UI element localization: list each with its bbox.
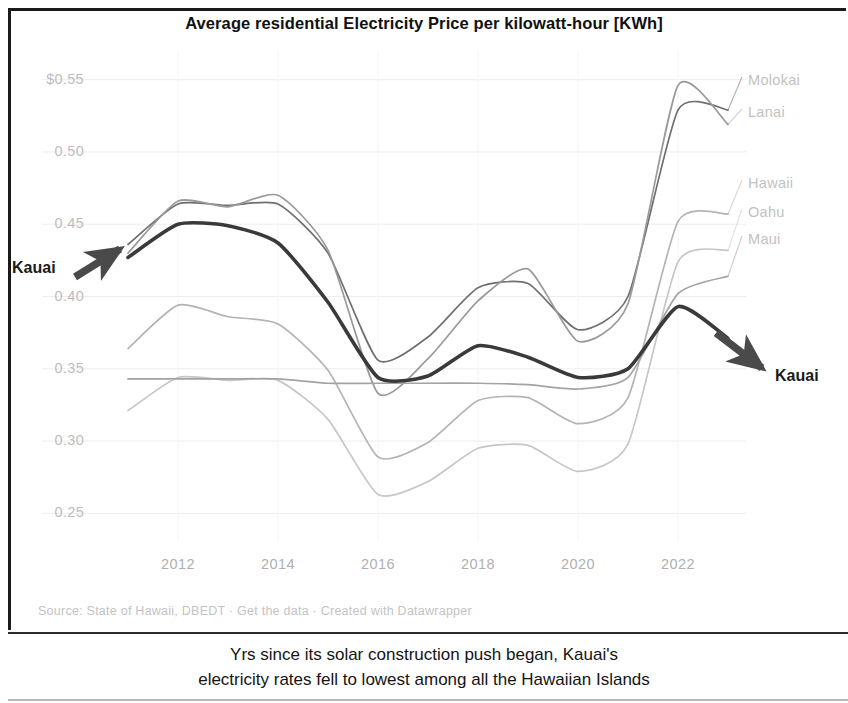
series-label-maui: Maui [748, 231, 781, 247]
x-tick-label: 2022 [643, 556, 713, 572]
lines-canvas [0, 0, 848, 600]
x-tick-label: 2014 [243, 556, 313, 572]
y-tick-label: 0.40 [22, 288, 84, 304]
caption-line-2: electricity rates fell to lowest among a… [0, 668, 848, 693]
figure-border-bottom [8, 632, 848, 634]
series-line-lanai [128, 82, 728, 396]
y-tick-label: $0.55 [22, 71, 84, 87]
annotation-arrow-right [716, 333, 762, 368]
source-note: Source: State of Hawaii, DBEDT · Get the… [38, 604, 472, 618]
y-tick-label: 0.30 [22, 432, 84, 448]
y-tick-label: 0.25 [22, 504, 84, 520]
label-connector-molokai [728, 77, 742, 110]
label-connector-hawaii [728, 180, 742, 214]
y-tick-label: 0.35 [22, 360, 84, 376]
series-line-molokai [128, 101, 728, 361]
x-tick-label: 2018 [443, 556, 513, 572]
series-label-molokai: Molokai [748, 72, 800, 88]
annotation-label-kauai-right: Kauai [775, 367, 819, 385]
label-connector-lanai [728, 109, 742, 125]
annotation-arrow-left [75, 249, 120, 277]
y-tick-label: 0.45 [22, 215, 84, 231]
x-tick-label: 2020 [543, 556, 613, 572]
caption-line-1: Yrs since its solar construction push be… [230, 645, 618, 664]
label-connector-oahu [728, 209, 742, 250]
label-connector-maui [728, 236, 742, 276]
series-line-hawaii [128, 211, 728, 459]
annotation-label-kauai-left: Kauai [12, 259, 56, 277]
series-line-maui [128, 276, 728, 389]
series-line-oahu [128, 249, 728, 496]
chart-figure: Average residential Electricity Price pe… [0, 0, 848, 703]
figure-caption: Yrs since its solar construction push be… [0, 643, 848, 692]
figure-border-footer [8, 699, 848, 701]
series-line-kauai [128, 223, 728, 381]
x-tick-label: 2012 [143, 556, 213, 572]
series-label-lanai: Lanai [748, 104, 785, 120]
x-tick-label: 2016 [343, 556, 413, 572]
y-tick-label: 0.50 [22, 143, 84, 159]
series-label-oahu: Oahu [748, 204, 785, 220]
plot-area [0, 0, 848, 600]
series-label-hawaii: Hawaii [748, 175, 793, 191]
